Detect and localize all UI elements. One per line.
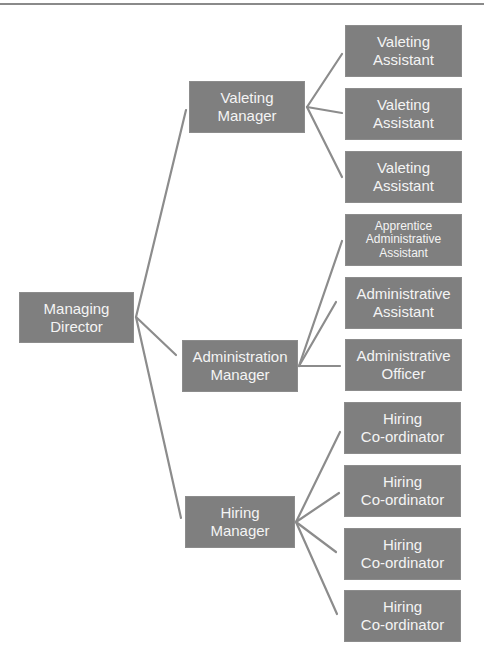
- node-label-line: Assistant: [373, 303, 434, 321]
- node-label-line: Co-ordinator: [361, 428, 444, 446]
- node-hiring-coordinator: Hiring Co-ordinator: [344, 528, 461, 580]
- connector-hm-1: [296, 432, 340, 522]
- node-label-line: Assistant: [379, 247, 428, 260]
- node-label-line: Officer: [382, 365, 426, 383]
- node-label-line: Manager: [217, 107, 276, 125]
- node-label-line: Administrative: [356, 285, 450, 303]
- node-label-line: Valeting: [377, 33, 430, 51]
- connector-md-hiring: [136, 317, 181, 518]
- node-hiring-coordinator: Hiring Co-ordinator: [344, 590, 461, 642]
- node-label-line: Valeting: [377, 96, 430, 114]
- connector-hm-4: [296, 522, 337, 614]
- node-administration-manager: Administration Manager: [182, 340, 298, 392]
- node-label-line: Hiring: [383, 473, 422, 491]
- node-administrative-assistant: Administrative Assistant: [345, 277, 462, 329]
- node-hiring-coordinator: Hiring Co-ordinator: [344, 402, 461, 454]
- connector-vm-1: [307, 54, 342, 107]
- node-label-line: Hiring: [220, 504, 259, 522]
- node-valeting-assistant: Valeting Assistant: [345, 88, 462, 140]
- node-label-line: Manager: [210, 366, 269, 384]
- connector-vm-3: [307, 107, 342, 177]
- node-label-line: Assistant: [373, 51, 434, 69]
- node-label-line: Managing: [44, 300, 110, 318]
- node-hiring-coordinator: Hiring Co-ordinator: [344, 465, 461, 517]
- node-label-line: Valeting: [220, 89, 273, 107]
- node-label-line: Co-ordinator: [361, 491, 444, 509]
- node-hiring-manager: Hiring Manager: [185, 496, 295, 548]
- node-label-line: Co-ordinator: [361, 616, 444, 634]
- node-label-line: Hiring: [383, 536, 422, 554]
- node-managing-director: Managing Director: [19, 292, 134, 343]
- node-label-line: Director: [50, 318, 103, 336]
- node-valeting-manager: Valeting Manager: [189, 81, 305, 133]
- node-valeting-assistant: Valeting Assistant: [345, 25, 462, 77]
- node-label-line: Administrative: [366, 233, 441, 246]
- node-label-line: Manager: [210, 522, 269, 540]
- node-label-line: Administrative: [356, 347, 450, 365]
- node-valeting-assistant: Valeting Assistant: [345, 151, 462, 203]
- connector-md-admin: [136, 317, 176, 355]
- node-label-line: Hiring: [383, 410, 422, 428]
- connector-vm-2: [307, 107, 342, 113]
- node-label-line: Assistant: [373, 177, 434, 195]
- node-label-line: Hiring: [383, 598, 422, 616]
- node-label-line: Valeting: [377, 159, 430, 177]
- node-administrative-officer: Administrative Officer: [345, 339, 462, 391]
- node-label-line: Administration: [192, 348, 287, 366]
- node-label-line: Assistant: [373, 114, 434, 132]
- node-label-line: Co-ordinator: [361, 554, 444, 572]
- node-apprentice-administrative-assistant: Apprentice Administrative Assistant: [345, 214, 462, 266]
- connector-md-valeting: [136, 110, 186, 317]
